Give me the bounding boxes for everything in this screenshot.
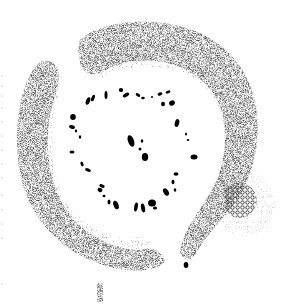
stone-ring [69,88,198,213]
lone-stone [184,262,189,268]
cellular-cluster [214,173,276,237]
central-stones [126,134,148,161]
edge-dots [1,75,2,284]
figure-stage [0,0,285,308]
left-bank [17,60,165,270]
stipple-illustration [0,0,285,308]
